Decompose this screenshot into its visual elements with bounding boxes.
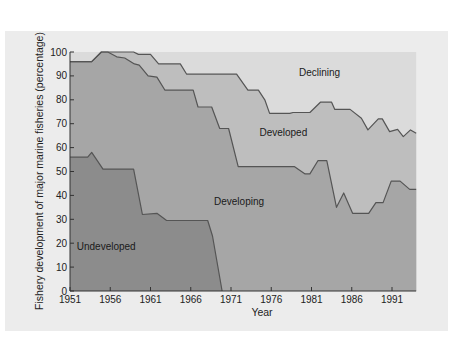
x-tick-label: 1951: [59, 294, 82, 305]
y-tick-label: 10: [56, 262, 68, 273]
x-tick-label: 1976: [260, 294, 283, 305]
developing-label: Developing: [214, 196, 264, 207]
y-tick-label: 40: [56, 190, 68, 201]
y-tick-label: 60: [56, 142, 68, 153]
x-tick-label: 1971: [220, 294, 243, 305]
y-tick-label: 20: [56, 238, 68, 249]
x-tick-label: 1986: [341, 294, 364, 305]
y-tick-label: 90: [56, 70, 68, 81]
x-axis-title: Year: [251, 306, 273, 318]
y-tick-label: 100: [50, 47, 67, 58]
y-tick-label: 30: [56, 214, 68, 225]
x-tick-label: 1956: [99, 294, 122, 305]
y-tick-label: 80: [56, 94, 68, 105]
x-tick-label: 1991: [381, 294, 404, 305]
x-tick-label: 1966: [180, 294, 203, 305]
area-chart: 0102030405060708090100195119561961196619…: [0, 0, 458, 353]
x-tick-label: 1981: [300, 294, 323, 305]
declining-label: Declining: [299, 67, 340, 78]
undeveloped-label: Undeveloped: [77, 241, 136, 252]
y-tick-label: 70: [56, 118, 68, 129]
y-axis-title: Fishery development of major marine fish…: [33, 32, 45, 310]
developed-label: Developed: [259, 127, 307, 138]
x-tick-label: 1961: [139, 294, 162, 305]
y-tick-label: 50: [56, 166, 68, 177]
